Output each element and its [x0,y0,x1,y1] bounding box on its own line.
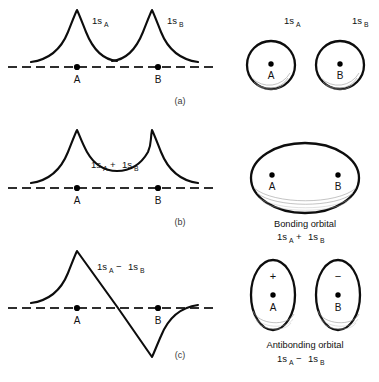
panel-a: A B 1s A 1s B (a) A 1s A [8,10,369,106]
svg-text:A: A [289,237,294,244]
panel-a-nucleus-a [74,64,80,70]
panel-c-nucleus-a-label: A [74,315,81,326]
svg-text:B: B [337,70,344,81]
svg-text:−: − [296,353,302,364]
svg-text:A: A [103,165,108,172]
svg-text:1s: 1s [167,15,177,26]
panel-a-orbital-circle-B: B [316,41,364,90]
svg-text:1s: 1s [277,353,287,364]
panel-b-nucleus-a-label: A [74,195,81,206]
panel-b-nucleus-b-label: B [155,195,162,206]
panel-c-label: (c) [175,350,186,360]
panel-c-antibonding-lobe-B: − B [316,260,360,330]
svg-text:B: B [134,165,139,172]
svg-text:1s: 1s [128,261,138,272]
panel-b-curve-sum [31,130,198,183]
panel-c-expression-label: 1s A − 1s B [97,261,145,274]
panel-b-label: (b) [175,217,186,227]
svg-text:1s: 1s [284,15,294,26]
panel-c-nucleus-b-label: B [155,315,162,326]
panel-a-orbital-label-1sA: 1s A [284,15,301,28]
panel-a-orbital-circle-A: A [247,41,295,90]
svg-text:A: A [109,267,114,274]
figure-canvas: A B 1s A 1s B (a) A 1s A [0,0,379,382]
panel-b: A B 1s A + 1s B (b) A B Bonding orbital … [8,130,359,244]
panel-c-lobe-b-sign: − [335,270,341,282]
svg-text:B: B [364,21,369,28]
svg-text:A: A [296,21,301,28]
svg-text:B: B [335,181,342,192]
panel-a-curve-label-1sA: 1s A [92,15,109,28]
panel-a-curve-label-1sB: 1s B [167,15,184,28]
svg-text:+: + [110,159,116,170]
svg-text:A: A [269,181,276,192]
panel-a-curve-1sB [112,10,198,62]
svg-text:1s: 1s [97,261,107,272]
panel-c-caption-expression: 1s A − 1s B [277,353,325,366]
panel-b-caption-expression: 1s A + 1s B [277,231,325,244]
panel-c-lobe-a-sign: + [270,270,276,282]
panel-a-nucleus-b [155,64,161,70]
svg-text:+: + [296,231,302,242]
svg-text:A: A [268,70,275,81]
panel-b-caption: Bonding orbital [274,219,336,229]
panel-c-nucleus-a [74,305,80,311]
panel-c-antibonding-lobe-A: + A [251,260,295,330]
panel-c: A B 1s A − 1s B (c) + A − B [8,251,360,366]
svg-text:1s: 1s [91,159,101,170]
panel-b-nucleus-a [74,185,80,191]
panel-a-curve-1sA [31,10,117,62]
svg-text:B: B [320,237,325,244]
svg-text:A: A [270,302,277,313]
svg-text:B: B [320,359,325,366]
svg-text:B: B [179,21,184,28]
svg-text:A: A [289,359,294,366]
svg-text:−: − [116,261,122,272]
panel-a-orbital-label-1sB: 1s B [352,15,369,28]
panel-a-label: (a) [175,96,186,106]
svg-text:1s: 1s [92,15,102,26]
svg-text:1s: 1s [308,353,318,364]
svg-text:1s: 1s [277,231,287,242]
orbital-combination-figure: A B 1s A 1s B (a) A 1s A [0,0,379,382]
svg-text:B: B [140,267,145,274]
svg-text:A: A [104,21,109,28]
panel-b-nucleus-b [155,185,161,191]
panel-c-nucleus-b [155,305,161,311]
panel-c-caption: Antibonding orbital [266,340,343,350]
panel-a-nucleus-a-label: A [74,74,81,85]
panel-b-bonding-orbital: A B [251,143,359,213]
svg-text:1s: 1s [352,15,362,26]
panel-c-curve-difference [31,251,198,357]
svg-text:B: B [335,302,342,313]
svg-text:1s: 1s [308,231,318,242]
svg-text:1s: 1s [122,159,132,170]
panel-a-nucleus-b-label: B [155,74,162,85]
